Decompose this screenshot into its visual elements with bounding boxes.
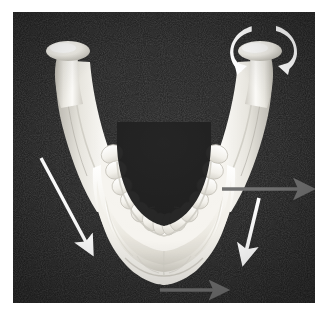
left-condyle-highlight [50,43,76,53]
figure-root [0,0,329,313]
mandible-svg [13,12,315,303]
right-condyle-highlight [242,43,268,53]
radiograph-plate [13,12,315,303]
mandible-illustration [13,12,315,303]
